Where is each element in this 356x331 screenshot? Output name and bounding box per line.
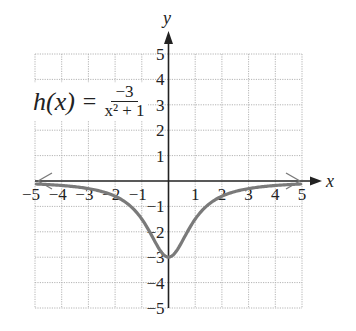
y-tick-label: 4	[156, 70, 165, 89]
y-tick-label: 5	[156, 45, 165, 64]
x-tick-label: −5	[22, 185, 40, 204]
formula-numerator: −3	[111, 83, 137, 102]
y-axis-label: y	[161, 8, 171, 28]
x-axis-arrow-icon	[310, 177, 322, 186]
formula-fraction: −3 x² + 1	[104, 83, 144, 120]
y-tick-label: 1	[156, 147, 165, 166]
function-formula: h(x) = −3 x² + 1	[30, 83, 148, 120]
y-tick-label: −4	[146, 274, 165, 293]
x-tick-label: 1	[191, 185, 200, 204]
x-tick-label: 5	[298, 185, 307, 204]
x-tick-label: −1	[129, 185, 147, 204]
function-graph: −5−4−3−2−11234554321−1−2−3−4−5 x y	[0, 0, 356, 331]
y-tick-label: 2	[156, 121, 165, 140]
x-axis-label: x	[325, 171, 334, 191]
y-axis-arrow-icon	[164, 31, 173, 44]
y-tick-label: 3	[156, 96, 165, 115]
y-tick-label: −1	[146, 197, 164, 216]
formula-lhs: h(x)	[33, 87, 75, 117]
formula-denominator: x² + 1	[104, 102, 144, 120]
x-tick-label: 4	[271, 185, 280, 204]
formula-equals: =	[83, 88, 97, 115]
x-tick-label: −4	[49, 185, 68, 204]
y-tick-label: −5	[146, 299, 164, 318]
